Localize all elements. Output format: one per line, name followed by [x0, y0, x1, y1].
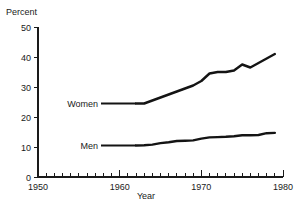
y-axis-ticks: 01020304050 [21, 23, 38, 183]
line-chart: Percent Year 01020304050 195019601970198… [0, 0, 302, 206]
chart-container: Percent Year 01020304050 195019601970198… [0, 0, 302, 206]
y-tick-label: 0 [26, 173, 31, 183]
y-tick-label: 30 [21, 83, 31, 93]
series-annotation-label-men: Men [80, 141, 98, 151]
series-group [136, 54, 275, 146]
x-tick-label: 1950 [28, 182, 48, 192]
annotation-group: WomenMen [67, 99, 136, 151]
series-line-men [136, 133, 275, 146]
x-axis-title: Year [137, 191, 155, 201]
series-annotation-label-women: Women [67, 99, 98, 109]
y-axis-title: Percent [6, 7, 38, 17]
y-tick-label: 50 [21, 23, 31, 33]
x-tick-label: 1960 [110, 182, 130, 192]
y-tick-label: 20 [21, 113, 31, 123]
x-tick-label: 1980 [273, 182, 293, 192]
y-tick-label: 40 [21, 53, 31, 63]
series-line-women [136, 54, 275, 104]
x-tick-label: 1970 [191, 182, 211, 192]
y-tick-label: 10 [21, 143, 31, 153]
x-axis-ticks: 1950196019701980 [28, 170, 293, 192]
